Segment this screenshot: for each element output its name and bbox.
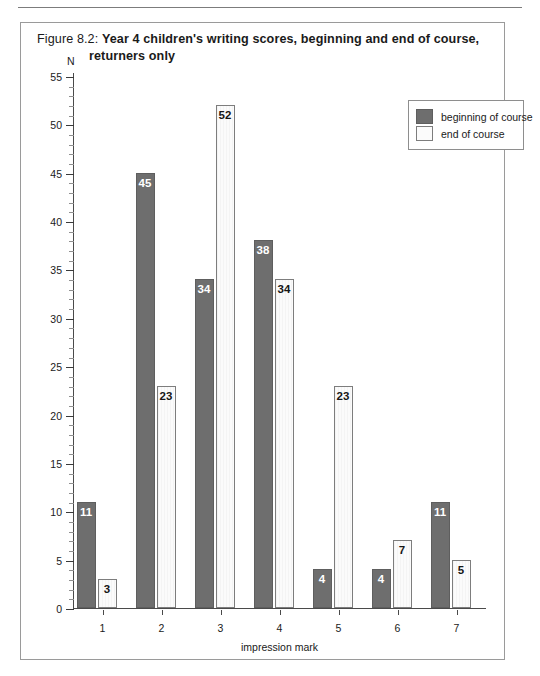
bar-value-label: 11 [434,506,446,518]
y-axis-tick-label: 25 [50,361,62,373]
y-axis-major-tick [66,270,74,271]
y-axis-minor-tick [69,454,74,455]
y-axis-minor-tick [69,87,74,88]
y-axis-minor-tick [69,377,74,378]
y-axis-minor-tick [69,532,74,533]
y-axis-minor-tick [69,580,74,581]
y-axis-major-tick [66,222,74,223]
x-axis-tick [457,610,458,615]
y-axis-minor-tick [69,474,74,475]
bar-value-label: 52 [219,109,232,121]
y-axis-minor-tick [69,280,74,281]
legend-item-label: end of course [441,128,505,140]
y-axis-minor-tick [69,96,74,97]
bar-end-mark-6[interactable]: 7 [393,540,412,608]
y-axis-minor-tick [69,290,74,291]
bar-value-label: 38 [257,244,270,256]
y-axis-minor-tick [69,338,74,339]
x-axis-tick [162,610,163,615]
bar-value-label: 5 [458,564,464,576]
y-axis-major-tick [66,561,74,562]
y-axis-minor-tick [69,241,74,242]
y-axis-major-tick [66,416,74,417]
bar-beginning-mark-1[interactable]: 11 [77,502,96,608]
bar-value-label: 34 [198,283,211,295]
x-axis-tick-label: 5 [336,622,342,634]
y-axis-major-tick [66,319,74,320]
figure-number-label: Figure 8.2: [37,32,98,46]
y-axis-minor-tick [69,406,74,407]
top-divider-rule [18,7,522,8]
legend-item-label: beginning of course [441,111,533,123]
y-axis-tick-label: 0 [56,603,62,615]
y-axis-minor-tick [69,387,74,388]
y-axis-minor-tick [69,309,74,310]
bar-value-label: 23 [160,390,173,402]
x-axis-line [73,608,486,609]
y-axis-minor-tick [69,106,74,107]
bar-end-mark-7[interactable]: 5 [452,560,471,608]
y-axis-major-tick [66,125,74,126]
y-axis-tick-label: 5 [56,555,62,567]
plot-area: N 0510152025303540455055 1234567 1134523… [73,77,486,609]
y-axis-minor-tick [69,348,74,349]
y-axis-minor-tick [69,328,74,329]
bar-end-mark-1[interactable]: 3 [98,579,117,608]
y-axis-tick-label: 35 [50,264,62,276]
y-axis-minor-tick [69,425,74,426]
y-axis-minor-tick [69,212,74,213]
bar-beginning-mark-4[interactable]: 38 [254,240,273,608]
x-axis-tick-label: 1 [100,622,106,634]
y-axis-tick-label: 40 [50,216,62,228]
bar-value-label: 34 [278,283,291,295]
y-axis-major-tick [66,512,74,513]
x-axis-tick-label: 3 [218,622,224,634]
y-axis-minor-tick [69,493,74,494]
legend-item-end-of-course[interactable]: end of course [416,126,516,141]
y-axis-minor-tick [69,522,74,523]
x-axis-tick [398,610,399,615]
y-axis-minor-tick [69,261,74,262]
y-axis-major-tick [66,464,74,465]
y-axis-tick-label: 30 [50,313,62,325]
y-axis-minor-tick [69,154,74,155]
y-axis-minor-tick [69,590,74,591]
y-axis-minor-tick [69,445,74,446]
bar-value-label: 3 [104,583,110,595]
bar-end-mark-2[interactable]: 23 [157,386,176,608]
bar-value-label: 4 [319,573,325,585]
y-axis-minor-tick [69,599,74,600]
y-axis-minor-tick [69,435,74,436]
legend-swatch-icon [416,126,433,141]
figure-title-line-1: Year 4 children's writing scores, beginn… [102,32,479,46]
y-axis-minor-tick [69,145,74,146]
bar-beginning-mark-5[interactable]: 4 [313,569,332,608]
y-axis-minor-tick [69,358,74,359]
bar-end-mark-4[interactable]: 34 [275,279,294,608]
y-axis-minor-tick [69,570,74,571]
bar-beginning-mark-6[interactable]: 4 [372,569,391,608]
bar-beginning-mark-3[interactable]: 34 [195,279,214,608]
legend-item-beginning-of-course[interactable]: beginning of course [416,109,516,124]
figure-title-line-2: returners only [37,48,489,65]
bar-beginning-mark-2[interactable]: 45 [136,173,155,608]
y-axis-tick-label: 55 [50,71,62,83]
x-axis-tick-label: 2 [159,622,165,634]
y-axis-minor-tick [69,183,74,184]
bar-beginning-mark-7[interactable]: 11 [431,502,450,608]
y-axis-minor-tick [69,396,74,397]
x-axis-tick [339,610,340,615]
y-axis-minor-tick [69,541,74,542]
y-axis-major-tick [66,174,74,175]
y-axis-tick-label: 20 [50,410,62,422]
y-axis-minor-tick [69,299,74,300]
chart-legend: beginning of courseend of course [408,100,524,150]
x-axis-tick [221,610,222,615]
bar-end-mark-5[interactable]: 23 [334,386,353,608]
y-axis-minor-tick [69,483,74,484]
y-axis-minor-tick [69,193,74,194]
y-axis-minor-tick [69,503,74,504]
y-axis-minor-tick [69,232,74,233]
y-axis-unit-label: N [67,55,75,67]
bar-end-mark-3[interactable]: 52 [216,105,235,608]
